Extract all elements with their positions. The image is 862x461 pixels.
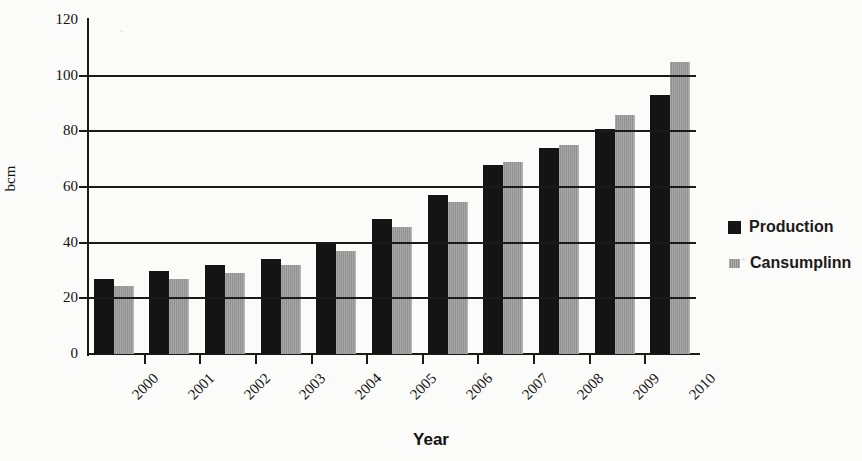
x-tick-mark — [477, 355, 479, 364]
bar-production — [94, 279, 114, 354]
gray-square-icon — [729, 259, 740, 268]
y-tick-mark — [79, 297, 90, 299]
y-tick-label: 20 — [38, 290, 78, 305]
y-tick-mark — [79, 242, 90, 244]
bar-consumption — [281, 265, 301, 354]
x-tick-mark — [644, 355, 646, 364]
y-tick-label: 40 — [38, 235, 78, 250]
y-tick-mark — [79, 186, 90, 188]
bar-consumption — [559, 145, 579, 354]
bar-production — [650, 95, 670, 354]
y-tick-label: 120 — [38, 12, 78, 27]
legend-label-production: Production — [749, 218, 833, 236]
x-tick-mark — [144, 355, 146, 364]
y-tick-mark — [79, 130, 90, 132]
legend-item-consumption: Cansumplinn — [728, 254, 862, 272]
x-tick-mark — [255, 355, 257, 364]
legend-label-consumption: Cansumplinn — [750, 254, 851, 272]
bar-consumption — [169, 279, 189, 354]
gridline — [88, 130, 696, 132]
chart-legend: Production Cansumplinn — [728, 218, 862, 290]
x-tick-mark — [533, 355, 535, 364]
bar-consumption — [392, 227, 412, 354]
gridline — [88, 297, 696, 299]
y-tick-label: 0 — [38, 346, 78, 361]
y-tick-label: 60 — [38, 179, 78, 194]
black-square-icon — [728, 221, 741, 234]
bar-production — [149, 271, 169, 355]
x-tick-label: 2006 — [463, 370, 496, 403]
bar-consumption — [336, 251, 356, 354]
x-tick-label: 2009 — [630, 370, 663, 403]
bar-consumption — [503, 162, 523, 354]
x-tick-label: 2005 — [407, 370, 440, 403]
x-tick-label: 2002 — [240, 370, 273, 403]
bar-consumption — [225, 273, 245, 354]
x-tick-mark — [422, 355, 424, 364]
y-axis-title: bcm — [2, 149, 19, 209]
bar-production — [539, 148, 559, 354]
x-tick-label: 2007 — [519, 370, 552, 403]
y-tick-mark — [79, 75, 90, 77]
gridline — [88, 186, 696, 188]
bar-consumption — [448, 202, 468, 354]
x-tick-mark — [589, 355, 591, 364]
x-tick-label: 2008 — [574, 370, 607, 403]
x-axis-title: Year — [0, 430, 862, 450]
bar-chart-figure: bcm 020406080100120 20002001200220032004… — [0, 0, 862, 461]
bar-production — [428, 195, 448, 354]
bar-production — [483, 165, 503, 354]
y-tick-label: 100 — [38, 68, 78, 83]
x-tick-mark — [366, 355, 368, 364]
y-tick-label: 80 — [38, 123, 78, 138]
bar-production — [261, 259, 281, 354]
x-tick-label: 2003 — [296, 370, 329, 403]
bar-production — [372, 219, 392, 354]
bar-consumption — [615, 115, 635, 354]
x-tick-label: 2001 — [185, 370, 218, 403]
x-tick-mark — [311, 355, 313, 364]
x-tick-label: 2000 — [129, 370, 162, 403]
x-tick-mark — [199, 355, 201, 364]
x-tick-label: 2010 — [685, 370, 718, 403]
legend-item-production: Production — [728, 218, 862, 236]
x-tick-label: 2004 — [352, 370, 385, 403]
bar-consumption — [114, 286, 134, 354]
bar-production — [205, 265, 225, 354]
gridline — [88, 242, 696, 244]
bar-consumption — [670, 62, 690, 354]
gridline — [88, 75, 696, 77]
